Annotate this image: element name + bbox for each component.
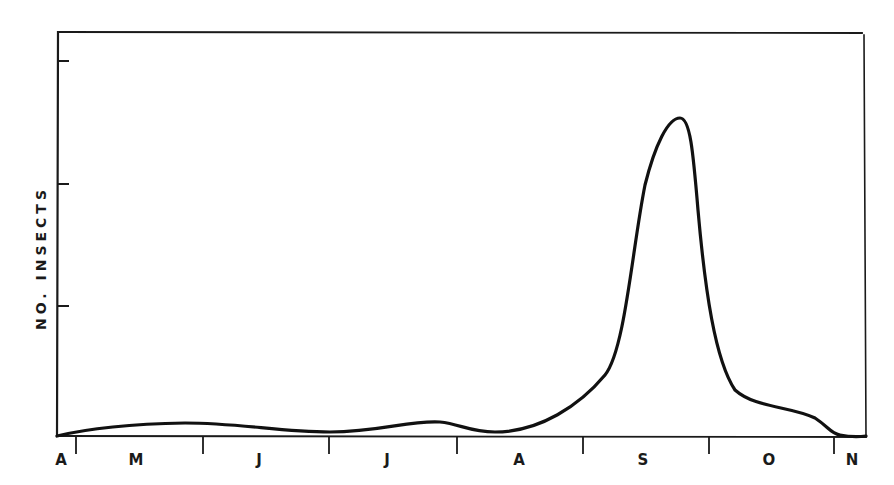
- plot-frame: [57, 32, 866, 437]
- chart-canvas: [0, 0, 894, 485]
- x-ticks: [76, 436, 834, 454]
- top-border: [58, 32, 862, 33]
- insect-count-curve: [57, 118, 866, 437]
- month-label: N: [846, 451, 859, 469]
- x-axis: [57, 436, 866, 437]
- right-border: [864, 35, 866, 436]
- chart: NO. INSECTS AMJJASON: [0, 0, 894, 485]
- month-label: A: [513, 451, 525, 469]
- month-label: O: [763, 451, 776, 469]
- month-label: J: [256, 451, 262, 469]
- month-label: A: [55, 451, 67, 469]
- y-axis-label: NO. INSECTS: [33, 186, 49, 330]
- y-axis: [57, 32, 58, 436]
- month-label: S: [638, 451, 649, 469]
- month-label: J: [384, 451, 390, 469]
- month-label: M: [129, 451, 144, 469]
